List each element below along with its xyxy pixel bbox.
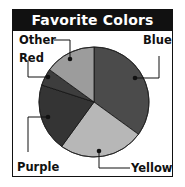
dot-purple [46, 115, 51, 120]
pie-chart: Other Red Blue Purple Yellow [0, 0, 185, 187]
dot-blue [133, 76, 138, 81]
dot-other [68, 57, 73, 62]
label-red: Red [19, 51, 44, 65]
label-other: Other [19, 33, 56, 47]
label-purple: Purple [17, 160, 59, 174]
label-blue: Blue [143, 33, 172, 47]
dot-red [46, 75, 51, 80]
pie-slices [39, 47, 149, 157]
label-yellow: Yellow [130, 161, 173, 175]
dot-yellow [97, 149, 102, 154]
